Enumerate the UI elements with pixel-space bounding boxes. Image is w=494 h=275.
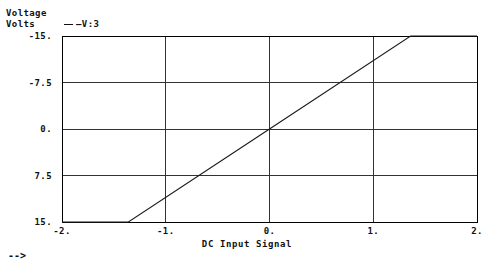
chart-canvas [0,0,494,275]
x-tick-label: 0. [264,226,276,236]
x-tick-label: 2. [471,226,483,236]
y-tick-label: 7.5 [4,171,52,181]
x-axis-title: DC Input Signal [0,239,494,249]
y-tick-label: -7.5 [4,78,52,88]
prompt-arrow-marker: --> [8,250,26,261]
dc-transfer-chart: Voltage Volts —V:3 15.7.50.-7.5-15. -2.-… [0,0,494,275]
y-tick-label: -15. [4,31,52,41]
y-tick-label: 15. [4,217,52,227]
x-tick-label: -2. [53,226,70,236]
y-tick-label: 0. [4,124,52,134]
x-tick-label: 1. [367,226,379,236]
x-tick-label: -1. [157,226,174,236]
